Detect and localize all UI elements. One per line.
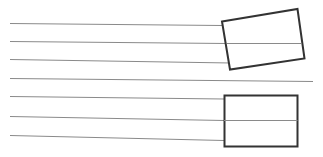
diagram-svg xyxy=(0,0,323,157)
diagram-canvas xyxy=(0,0,323,157)
